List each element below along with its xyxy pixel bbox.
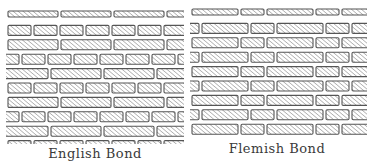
header-brick bbox=[100, 112, 123, 122]
stretcher-brick bbox=[192, 9, 238, 15]
stretcher-brick bbox=[267, 9, 313, 15]
stretcher-brick bbox=[202, 52, 248, 62]
stretcher-brick bbox=[192, 38, 238, 48]
english-bond-wall bbox=[6, 10, 184, 144]
stretcher-brick bbox=[61, 97, 111, 107]
header-brick bbox=[326, 23, 349, 33]
stretcher-brick bbox=[51, 126, 101, 136]
stretcher-brick bbox=[114, 97, 164, 107]
header-brick bbox=[251, 23, 274, 33]
header-brick bbox=[112, 83, 135, 93]
header-brick bbox=[241, 124, 264, 134]
stretcher-brick bbox=[51, 69, 101, 79]
stretcher-brick bbox=[277, 23, 323, 33]
stretcher-brick bbox=[61, 40, 111, 50]
header-brick bbox=[178, 112, 184, 122]
header-brick bbox=[60, 83, 83, 93]
flemish-bond-wall bbox=[190, 8, 367, 138]
header-brick bbox=[138, 83, 161, 93]
header-brick bbox=[86, 25, 109, 35]
stretcher-brick bbox=[167, 97, 184, 107]
stretcher-brick bbox=[202, 81, 248, 91]
header-brick bbox=[34, 83, 57, 93]
header-brick bbox=[164, 25, 184, 35]
stretcher-brick bbox=[267, 124, 313, 134]
header-brick bbox=[48, 112, 71, 122]
stretcher-brick bbox=[352, 81, 367, 91]
stretcher-brick bbox=[167, 11, 184, 17]
stretcher-brick bbox=[277, 81, 323, 91]
header-brick bbox=[326, 81, 349, 91]
header-brick bbox=[112, 141, 135, 144]
stretcher-brick bbox=[267, 95, 313, 105]
header-brick bbox=[251, 52, 274, 62]
header-brick bbox=[22, 54, 45, 64]
header-brick bbox=[190, 81, 199, 91]
header-brick bbox=[8, 25, 31, 35]
header-brick bbox=[251, 110, 274, 120]
header-brick bbox=[126, 112, 149, 122]
stretcher-brick bbox=[342, 38, 367, 48]
header-brick bbox=[48, 54, 71, 64]
stretcher-brick bbox=[157, 126, 184, 136]
header-brick bbox=[316, 67, 339, 77]
stretcher-brick bbox=[61, 11, 111, 17]
stretcher-brick bbox=[192, 124, 238, 134]
stretcher-brick bbox=[114, 11, 164, 17]
stretcher-brick bbox=[342, 124, 367, 134]
header-brick bbox=[164, 83, 184, 93]
header-brick bbox=[152, 54, 175, 64]
stretcher-brick bbox=[352, 52, 367, 62]
header-brick bbox=[241, 38, 264, 48]
header-brick bbox=[316, 9, 339, 15]
header-brick bbox=[6, 54, 19, 64]
header-brick bbox=[8, 83, 31, 93]
header-brick bbox=[6, 112, 19, 122]
header-brick bbox=[190, 23, 199, 33]
header-brick bbox=[241, 9, 264, 15]
header-brick bbox=[326, 110, 349, 120]
header-brick bbox=[34, 141, 57, 144]
stretcher-brick bbox=[342, 9, 367, 15]
stretcher-brick bbox=[267, 38, 313, 48]
stretcher-brick bbox=[104, 69, 154, 79]
header-brick bbox=[22, 112, 45, 122]
stretcher-brick bbox=[6, 69, 48, 79]
header-brick bbox=[251, 81, 274, 91]
stretcher-brick bbox=[342, 67, 367, 77]
header-brick bbox=[152, 112, 175, 122]
stretcher-brick bbox=[104, 126, 154, 136]
header-brick bbox=[60, 25, 83, 35]
header-brick bbox=[86, 141, 109, 144]
english-bond-caption: English Bond bbox=[48, 146, 142, 161]
header-brick bbox=[190, 52, 199, 62]
flemish-bond-caption: Flemish Bond bbox=[229, 141, 326, 156]
stretcher-brick bbox=[8, 11, 58, 17]
header-brick bbox=[100, 54, 123, 64]
stretcher-brick bbox=[192, 67, 238, 77]
stretcher-brick bbox=[157, 69, 184, 79]
stretcher-brick bbox=[352, 23, 367, 33]
header-brick bbox=[74, 54, 97, 64]
stretcher-brick bbox=[202, 23, 248, 33]
header-brick bbox=[316, 124, 339, 134]
stretcher-brick bbox=[202, 110, 248, 120]
stretcher-brick bbox=[8, 97, 58, 107]
stretcher-brick bbox=[352, 110, 367, 120]
stretcher-brick bbox=[342, 95, 367, 105]
header-brick bbox=[316, 38, 339, 48]
stretcher-brick bbox=[167, 40, 184, 50]
header-brick bbox=[126, 54, 149, 64]
stretcher-brick bbox=[8, 40, 58, 50]
header-brick bbox=[241, 95, 264, 105]
header-brick bbox=[164, 141, 184, 144]
header-brick bbox=[326, 52, 349, 62]
header-brick bbox=[86, 83, 109, 93]
header-brick bbox=[8, 141, 31, 144]
stretcher-brick bbox=[6, 126, 48, 136]
header-brick bbox=[112, 25, 135, 35]
header-brick bbox=[60, 141, 83, 144]
stretcher-brick bbox=[192, 95, 238, 105]
header-brick bbox=[138, 141, 161, 144]
header-brick bbox=[74, 112, 97, 122]
